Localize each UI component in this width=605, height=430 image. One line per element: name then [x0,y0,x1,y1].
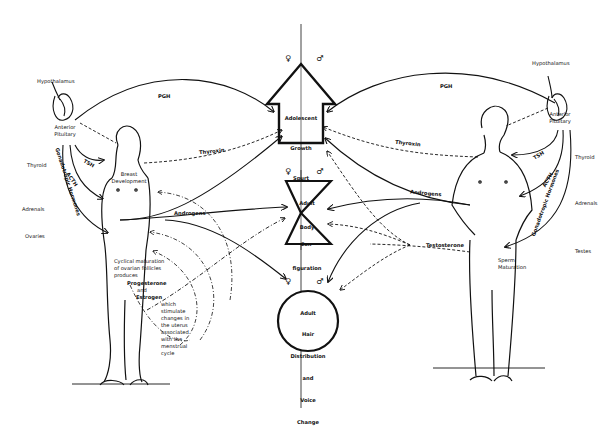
male-hypothalamus-label: Hypothalamus [532,60,570,67]
male-testes-label: Testes [575,248,591,255]
female-figure-icon [100,126,150,385]
estrogen-label: Estrogen [136,294,162,301]
female-symbol: ♀ [285,167,291,176]
male-adrenals-label: Adrenals [575,200,598,207]
breast-development-label: Breast Development [112,171,147,185]
female-thyroid-label: Thyroid [27,162,46,169]
male-symbol: ♂ [316,277,323,286]
female-adrenals-label: Adrenals [22,206,45,213]
progesterone-label: Progesterone [127,280,167,287]
male-thyroid-label: Thyroid [575,154,594,161]
and-label: and [137,287,147,294]
hair-voice-label: Adult Hair Distribution and Voice Change [291,295,326,430]
female-pituitary-label: Anterior Pituitary [54,124,76,138]
female-hypothalamus-label: Hypothalamus [37,78,75,85]
testosterone-label: Testosterone [426,242,464,249]
female-ovaries-label: Ovaries [25,233,45,240]
sperm-maturation-label: Sperm Maturation [498,257,526,271]
female-symbol: ♀ [285,277,291,286]
male-figure-icon [452,106,532,381]
follicle-maturation-label: Cyclical maturation of ovarian follicles… [114,258,164,279]
female-androgens-label: Androgens [174,210,206,217]
male-pgh-label: PGH [440,83,452,90]
male-symbol: ♂ [316,54,323,63]
female-pgh-label: PGH [158,93,170,100]
female-symbol: ♀ [285,54,291,63]
male-symbol: ♂ [316,167,323,176]
left-pituitary-gland-icon [52,82,73,120]
uterus-changes-label: which stimulate changes in the uterus as… [161,301,189,357]
male-pituitary-label: Anterior Pituitary [549,111,571,125]
